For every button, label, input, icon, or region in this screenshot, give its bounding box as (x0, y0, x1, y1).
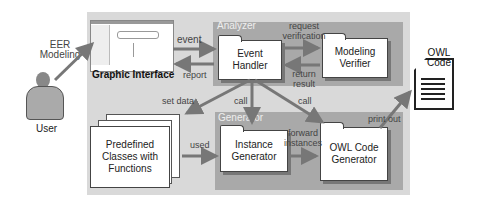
call-instance-label: call (234, 96, 248, 106)
request-verification-label: request verification (276, 21, 332, 41)
forward-instances-label: forward instances (280, 128, 326, 148)
set-data-label: set data (162, 96, 194, 106)
call-owl-label: call (298, 96, 312, 106)
eer-modeling-arrow (55, 44, 92, 80)
return-result-label: return result (288, 69, 320, 89)
used-label: used (190, 140, 210, 150)
report-label: report (183, 70, 207, 80)
print-out-label: print out (368, 114, 401, 124)
event-label: event (177, 35, 201, 45)
